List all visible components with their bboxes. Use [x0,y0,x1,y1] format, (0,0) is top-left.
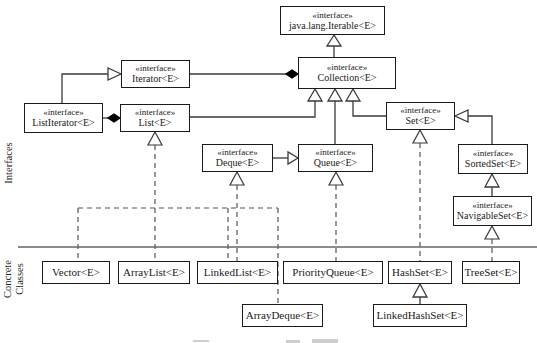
arrow-into-queue [329,172,343,185]
node-navigableset: «interface» NavigableSet<E> [453,196,532,226]
stereotype-label: «interface» [473,148,513,158]
uml-class-diagram: Interfaces Concrete Classes «interface» … [0,0,537,343]
edge-set-extends-collection [346,89,386,116]
node-deque: «interface» Deque<E> [202,144,273,172]
node-list: «interface» List<E> [120,104,190,132]
arrow-into-deque [230,172,244,185]
arrow-into-navigableset [485,226,499,239]
node-linkedhashset: LinkedHashSet<E> [373,304,467,327]
node-priorityqueue: PriorityQueue<E> [283,261,383,284]
class-name: LinkedList<E> [204,266,271,279]
class-name: Vector<E> [52,266,100,279]
class-name: List<E> [139,117,172,129]
edge-listiterator-extends-iterator [62,68,121,103]
class-name: SortedSet<E> [465,158,521,170]
class-name: Queue<E> [314,157,358,169]
class-name: Deque<E> [216,157,260,169]
class-name: NavigableSet<E> [457,210,528,222]
node-listiterator: «interface» ListIterator<E> [24,103,103,133]
stereotype-label: «interface» [135,107,175,117]
edge-deque-extends-queue [273,152,298,164]
node-arraydeque: ArrayDeque<E> [242,304,323,327]
edge-list-extends-collection [190,89,322,117]
class-name: Collection<E> [317,72,376,84]
arrow-into-set [413,130,427,143]
edge-sortedset-extends-set [455,110,492,144]
node-queue: «interface» Queue<E> [298,144,373,172]
node-sortedset: «interface» SortedSet<E> [458,144,528,174]
class-name: Iterator<E> [132,73,179,85]
cropped-caption-fragment [312,339,338,343]
class-name: ArrayList<E> [123,266,185,279]
node-iterable: «interface» java.lang.Iterable<E> [280,6,385,35]
edge-collection-aggregates-iterator [190,70,298,78]
edge-collection-extends-iterable [327,35,341,57]
stereotype-label: «interface» [43,107,83,117]
edge-navigableset-extends-sortedset [485,174,499,196]
edge-linkedhashset-extends-hashset [413,284,427,304]
class-name: ArrayDeque<E> [246,309,320,322]
edge-queue-extends-collection [328,89,342,144]
stereotype-label: «interface» [217,147,257,157]
stereotype-label: «interface» [312,10,352,20]
node-set: «interface» Set<E> [386,102,455,130]
arrow-into-list [148,132,162,145]
class-name: Set<E> [405,115,435,127]
class-name: ListIterator<E> [32,117,94,129]
node-treeset: TreeSet<E> [462,261,520,284]
class-name: PriorityQueue<E> [292,266,373,279]
node-iterator: «interface» Iterator<E> [121,60,190,88]
node-collection: «interface» Collection<E> [298,57,396,89]
stereotype-label: «interface» [327,62,367,72]
class-name: java.lang.Iterable<E> [289,20,376,32]
section-label-concrete-classes: Concrete Classes [2,249,25,309]
stereotype-label: «interface» [135,63,175,73]
stereotype-label: «interface» [400,105,440,115]
stereotype-label: «interface» [315,147,355,157]
section-label-interfaces: Interfaces [3,142,15,183]
class-name: TreeSet<E> [465,266,518,279]
node-hashset: HashSet<E> [388,261,452,284]
edge-list-aggregates-listiterator [103,114,120,122]
cropped-caption-fragment [193,340,209,342]
stereotype-label: «interface» [472,200,512,210]
node-vector: Vector<E> [42,261,110,284]
node-linkedlist: LinkedList<E> [197,261,278,284]
class-name: LinkedHashSet<E> [377,309,464,322]
node-arraylist: ArrayList<E> [118,261,190,284]
class-name: HashSet<E> [392,266,448,279]
